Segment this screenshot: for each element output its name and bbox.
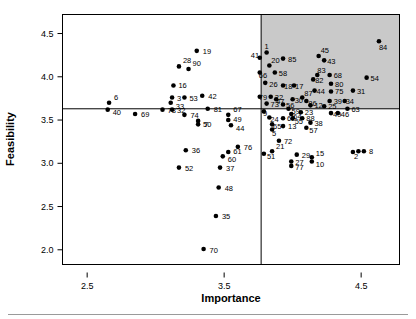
data-point-marker xyxy=(220,154,225,159)
data-point-label: 82 xyxy=(315,76,323,85)
data-point-label: 79 xyxy=(259,93,267,102)
data-point-marker xyxy=(268,94,273,99)
data-point-label: 70 xyxy=(210,246,218,255)
data-point-marker xyxy=(160,107,165,112)
data-point-marker xyxy=(186,67,191,72)
data-point-marker xyxy=(264,50,269,55)
data-point-label: 51 xyxy=(267,152,275,161)
data-point-label: 74 xyxy=(190,111,198,120)
data-point-label: 85 xyxy=(288,55,296,64)
data-point-marker xyxy=(168,100,173,105)
data-point-label: 5 xyxy=(272,129,276,138)
data-point-label: 20 xyxy=(271,56,279,65)
data-point-marker xyxy=(205,106,210,111)
data-point-label: 42 xyxy=(208,92,216,101)
data-point-marker xyxy=(289,164,294,169)
data-point-label: 12 xyxy=(314,101,322,110)
data-point-label: 48 xyxy=(225,184,233,193)
scatter-plot-figure: 2.02.53.03.54.04.5 2.53.54.5 19640694281… xyxy=(0,0,416,319)
data-point-marker xyxy=(107,100,112,105)
data-point-marker xyxy=(105,107,110,112)
data-point-marker xyxy=(286,106,291,111)
data-point-marker xyxy=(281,56,286,61)
data-point: 79 xyxy=(257,93,267,102)
data-point-marker xyxy=(300,116,305,121)
data-point-label: 77 xyxy=(295,163,303,172)
data-point-marker xyxy=(351,88,356,93)
data-point-marker xyxy=(201,247,206,252)
data-point-marker xyxy=(236,145,241,150)
data-point-label: 75 xyxy=(335,87,343,96)
data-point-label: 54 xyxy=(371,74,379,83)
x-tick-label: 2.5 xyxy=(81,281,94,291)
data-point-label: 52 xyxy=(185,164,193,173)
data-point-marker xyxy=(329,81,334,86)
data-point-label: 41 xyxy=(251,51,259,60)
data-point-marker xyxy=(200,94,205,99)
data-point-label: 21 xyxy=(276,142,284,151)
data-point xyxy=(356,149,361,154)
data-point-label: 17 xyxy=(295,82,303,91)
data-point-label: 83 xyxy=(317,66,325,75)
data-point-label: 73 xyxy=(271,100,279,109)
data-point-marker xyxy=(226,113,231,118)
data-point-marker xyxy=(308,120,313,125)
data-point-marker xyxy=(182,95,187,100)
data-point-marker xyxy=(329,89,334,94)
data-point-marker xyxy=(264,101,269,106)
data-point-label: 37 xyxy=(226,164,234,173)
data-point-marker xyxy=(356,149,361,154)
data-point-marker xyxy=(194,49,199,54)
data-point-marker xyxy=(322,58,327,63)
data-point-marker xyxy=(327,73,332,78)
data-point-marker xyxy=(294,152,299,157)
data-point-label: 90 xyxy=(193,59,201,68)
y-tick-label: 3.0 xyxy=(41,158,54,168)
data-point-marker xyxy=(183,148,188,153)
data-point-label: 87 xyxy=(304,89,312,98)
data-point-marker xyxy=(262,151,267,156)
data-point-label: 10 xyxy=(316,160,324,169)
data-point-marker xyxy=(171,83,176,88)
data-point-marker xyxy=(170,95,175,100)
data-point-label: 67 xyxy=(233,105,241,114)
data-point-label: 81 xyxy=(214,105,222,114)
data-point-label: 36 xyxy=(192,146,200,155)
data-point-marker xyxy=(226,118,231,123)
data-point-marker xyxy=(336,111,341,116)
data-point-label: 16 xyxy=(178,81,186,90)
data-point-marker xyxy=(218,165,223,170)
data-point: 9 xyxy=(262,109,267,118)
data-point-label: 50 xyxy=(203,120,211,129)
data-point-label: 44 xyxy=(236,124,244,133)
data-point-marker xyxy=(216,185,221,190)
data-point-marker xyxy=(299,110,304,115)
scatter-plot-canvas: 2.02.53.03.54.04.5 2.53.54.5 19640694281… xyxy=(0,0,416,319)
y-tick-label: 2.0 xyxy=(41,245,54,255)
x-tick-label: 3.5 xyxy=(218,281,231,291)
data-point-marker xyxy=(263,81,268,86)
y-tick-label: 2.5 xyxy=(41,202,54,212)
data-point-marker xyxy=(273,70,278,75)
data-point-marker xyxy=(177,64,182,69)
y-tick-label: 4.0 xyxy=(41,72,54,82)
data-point-marker xyxy=(177,165,182,170)
data-point-marker xyxy=(364,75,369,80)
data-point-label: 49 xyxy=(233,115,241,124)
data-point-label: 13 xyxy=(288,122,296,131)
data-point-label: 57 xyxy=(309,126,317,135)
data-point-label: 46 xyxy=(341,110,349,119)
data-point-label: 26 xyxy=(269,80,277,89)
data-point-label: 9 xyxy=(263,109,267,118)
y-tick-label: 3.5 xyxy=(41,115,54,125)
data-point-label: 1 xyxy=(265,42,269,51)
data-point-marker xyxy=(133,112,138,117)
data-point-marker xyxy=(281,102,286,107)
data-point-label: 2 xyxy=(354,152,358,161)
data-point-label: 76 xyxy=(244,143,252,152)
data-point-label: 6 xyxy=(114,93,118,102)
data-point-marker xyxy=(214,214,219,219)
y-axis-title: Feasibility xyxy=(4,111,16,166)
data-point-marker xyxy=(322,104,327,109)
data-point-marker xyxy=(170,107,175,112)
